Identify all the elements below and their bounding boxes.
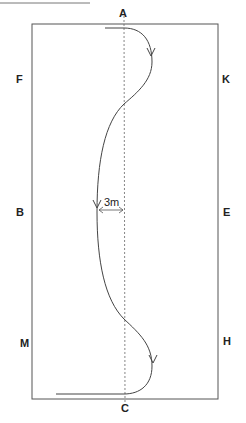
marker-a: A <box>119 7 127 19</box>
arrow-icon-lower <box>149 355 157 363</box>
marker-f: F <box>16 73 23 85</box>
serpentine-path <box>56 28 152 394</box>
centerline <box>124 16 125 402</box>
marker-k: K <box>222 73 230 85</box>
arena-border <box>32 24 218 399</box>
marker-e: E <box>223 206 230 218</box>
marker-m: M <box>20 337 29 349</box>
dimension-label: 3m <box>104 196 119 208</box>
arena-diagram: 3m A C F B M K E H <box>0 0 246 423</box>
marker-h: H <box>223 335 231 347</box>
marker-c: C <box>121 402 129 414</box>
marker-b: B <box>16 206 24 218</box>
